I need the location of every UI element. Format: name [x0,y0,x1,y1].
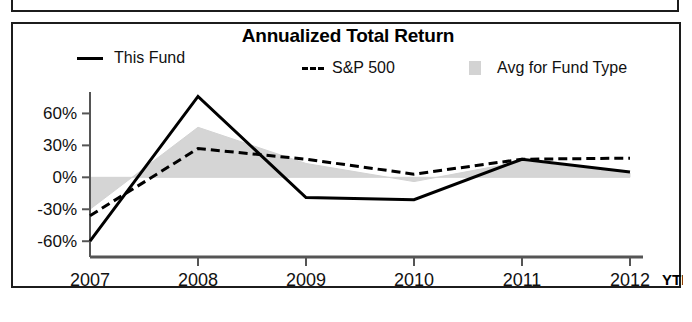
svg-text:60%: 60% [43,104,77,123]
annualized-total-return-panel: Annualized Total Return This Fund S&P 50… [11,22,681,288]
svg-text:-60%: -60% [37,232,77,251]
screenshot-root: Annualized Total Return This Fund S&P 50… [0,0,692,322]
svg-text:2007: 2007 [70,270,110,290]
chart-plot-area: -60%-30%0%30%60%200720082009201020112012… [13,24,683,290]
svg-text:0%: 0% [52,168,77,187]
svg-text:2012: 2012 [610,270,650,290]
svg-text:2009: 2009 [286,270,326,290]
svg-text:2010: 2010 [394,270,434,290]
preceding-panel-sliver [11,0,679,12]
svg-text:2008: 2008 [178,270,218,290]
svg-text:2011: 2011 [503,270,542,290]
svg-text:30%: 30% [43,136,77,155]
svg-text:-30%: -30% [37,200,77,219]
svg-text:YTD: YTD [662,271,683,288]
